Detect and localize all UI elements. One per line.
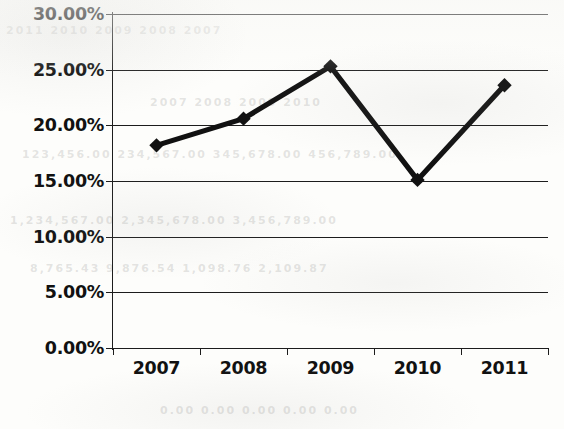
x-axis-tick-label: 2008 [220, 358, 268, 378]
x-axis-tick-label: 2009 [307, 358, 355, 378]
series-markers [149, 59, 511, 187]
series-line [157, 66, 505, 180]
x-axis-tick-label: 2010 [394, 358, 442, 378]
y-axis-tick [106, 125, 113, 126]
x-axis-tick [548, 348, 549, 355]
y-axis-tick-label: 10.00% [0, 227, 104, 247]
y-axis-tick [106, 14, 113, 15]
y-axis-tick-label: 0.00% [0, 338, 104, 358]
y-axis-tick-label: 15.00% [0, 171, 104, 191]
x-axis-tick-label: 2011 [481, 358, 529, 378]
data-series-layer [113, 14, 548, 348]
y-axis-tick-label: 5.00% [0, 282, 104, 302]
x-axis-tick-label: 2007 [133, 358, 181, 378]
y-axis-tick-label: 30.00% [0, 4, 104, 24]
gridline [113, 348, 548, 349]
x-axis-tick [200, 348, 201, 355]
y-axis-tick [106, 70, 113, 71]
y-axis-tick [106, 292, 113, 293]
y-axis-tick-label: 20.00% [0, 115, 104, 135]
x-axis-tick [461, 348, 462, 355]
line-chart: 0.00%5.00%10.00%15.00%20.00%25.00%30.00%… [0, 0, 564, 429]
y-axis-tick-label: 25.00% [0, 60, 104, 80]
x-axis-tick [287, 348, 288, 355]
data-point-marker [149, 138, 163, 152]
x-axis-tick [374, 348, 375, 355]
y-axis-tick [106, 181, 113, 182]
y-axis-tick [106, 348, 113, 349]
y-axis-tick [106, 237, 113, 238]
x-axis-tick [113, 348, 114, 355]
